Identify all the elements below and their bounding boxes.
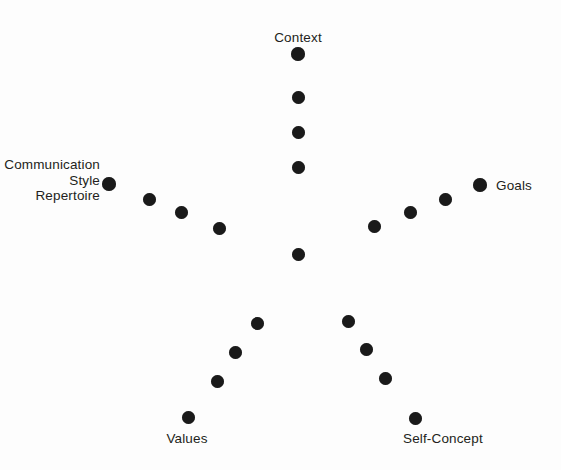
dot-values-arm-2 bbox=[229, 346, 242, 359]
dot-goals-arm-1 bbox=[368, 220, 381, 233]
dot-values-arm-3 bbox=[211, 375, 224, 388]
label-self-concept: Self-Concept bbox=[403, 431, 483, 447]
diagram-canvas: ContextGoalsCommunication Style Repertoi… bbox=[0, 0, 561, 470]
dot-context-arm-3 bbox=[292, 126, 305, 139]
dot-context-arm-2 bbox=[292, 91, 305, 104]
dot-values-arm-4 bbox=[182, 411, 195, 424]
dot-self-concept-arm-4 bbox=[409, 412, 422, 425]
dot-goals-arm-3 bbox=[439, 193, 452, 206]
dot-values-arm-1 bbox=[251, 317, 264, 330]
dot-communication-style-arm-2 bbox=[143, 193, 156, 206]
dot-context-arm-5 bbox=[292, 248, 305, 261]
dot-self-concept-arm-1 bbox=[342, 315, 355, 328]
dot-communication-style-arm-4 bbox=[213, 222, 226, 235]
label-values: Values bbox=[166, 431, 207, 447]
label-context: Context bbox=[274, 30, 322, 46]
dot-self-concept-arm-3 bbox=[379, 372, 392, 385]
dot-communication-style-arm-1 bbox=[102, 177, 116, 191]
dot-communication-style-arm-3 bbox=[175, 206, 188, 219]
dot-self-concept-arm-2 bbox=[360, 343, 373, 356]
label-goals: Goals bbox=[496, 178, 532, 194]
dot-goals-arm-4 bbox=[473, 178, 487, 192]
label-comm-style: Communication Style Repertoire bbox=[4, 157, 100, 204]
dot-context-arm-1 bbox=[291, 47, 305, 61]
dot-goals-arm-2 bbox=[404, 206, 417, 219]
dot-context-arm-4 bbox=[292, 161, 305, 174]
